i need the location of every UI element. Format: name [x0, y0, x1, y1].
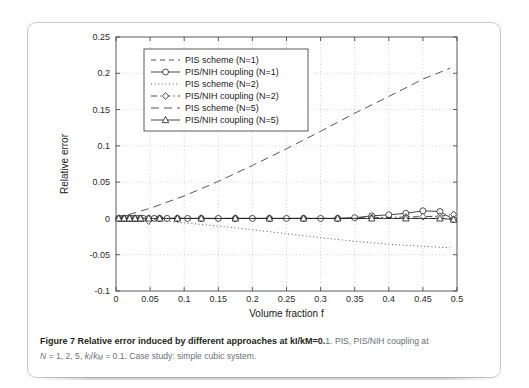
x-tick-label: 0.05	[141, 294, 159, 304]
y-tick-label: 0.15	[92, 105, 110, 115]
legend-label-2: PIS scheme (N=2)	[185, 79, 259, 89]
y-tick-label: -0.05	[89, 250, 110, 260]
caption-n-values: = 1, 2, 5,	[46, 351, 84, 361]
y-axis-title: Relative error	[59, 133, 70, 194]
legend-label-5: PIS/NIH coupling (N=5)	[185, 115, 279, 125]
x-tick-label: 0.1	[178, 294, 191, 304]
series-marker-3	[420, 213, 426, 220]
y-tick-label: 0.05	[92, 177, 110, 187]
x-tick-label: 0.35	[346, 294, 364, 304]
figure-card: 00.050.10.150.20.250.30.350.40.450.5-0.1…	[27, 22, 501, 378]
y-tick-label: 0	[105, 214, 110, 224]
y-tick-label: 0.25	[92, 32, 110, 42]
series-marker-1	[352, 215, 358, 221]
caption-second-line: N = 1, 2, 5, kI/kM = 0.1. Case study: si…	[40, 350, 490, 365]
y-tick-label: 0.1	[97, 141, 110, 151]
x-tick-label: 0.25	[278, 294, 296, 304]
chart-plot-area: 00.050.10.150.20.250.30.350.40.450.5-0.1…	[28, 23, 502, 325]
y-tick-label: 0.2	[97, 68, 110, 78]
x-tick-label: 0.3	[314, 294, 327, 304]
chart-svg: 00.050.10.150.20.250.30.350.40.450.5-0.1…	[28, 23, 502, 325]
x-tick-label: 0.5	[451, 294, 464, 304]
legend-label-3: PIS/NIH coupling (N=2)	[185, 91, 279, 101]
x-tick-label: 0	[113, 294, 118, 304]
legend-label-4: PIS scheme (N=5)	[185, 103, 259, 113]
card-shadow	[33, 377, 499, 380]
x-tick-label: 0.4	[383, 294, 396, 304]
x-axis-title: Volume fraction f	[249, 308, 324, 319]
x-tick-label: 0.2	[246, 294, 259, 304]
y-tick-label: -0.1	[94, 286, 110, 296]
x-tick-label: 0.15	[210, 294, 228, 304]
figure-caption: Figure 7 Relative error induced by diffe…	[40, 335, 490, 364]
legend-sample-marker-1	[163, 69, 169, 75]
series-line-2	[116, 218, 450, 247]
legend-label-1: PIS/NIH coupling (N=1)	[185, 67, 279, 77]
legend-label-0: PIS scheme (N=1)	[185, 55, 259, 65]
x-tick-label: 0.45	[414, 294, 432, 304]
caption-tail-text: = 0.1. Case study: simple cubic system.	[103, 351, 257, 361]
caption-bold-text: Figure 7 Relative error induced by diffe…	[40, 336, 325, 346]
caption-regular-text: 1. PIS, PIS/NIH coupling at	[325, 336, 428, 346]
